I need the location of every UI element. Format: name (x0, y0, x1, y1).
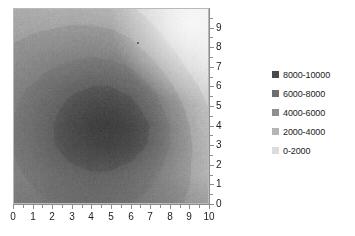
legend-label: 8000-10000 (283, 70, 330, 80)
x-tick-minor (199, 205, 200, 208)
x-tick-label: 6 (128, 212, 134, 222)
x-tick-label: 0 (10, 212, 16, 222)
x-tick-major (111, 205, 112, 209)
y-tick-major (210, 165, 214, 166)
speck-artifact (137, 42, 139, 44)
x-tick-label: 5 (108, 212, 114, 222)
legend-item: 8000-10000 (272, 65, 352, 84)
y-tick-minor (210, 37, 213, 38)
x-tick-major (91, 205, 92, 209)
y-tick-major (210, 47, 214, 48)
x-tick-major (13, 205, 14, 209)
x-tick-minor (180, 205, 181, 208)
y-tick-minor (210, 57, 213, 58)
contour-surface-canvas (14, 9, 208, 203)
x-tick-minor (101, 205, 102, 208)
legend-item: 6000-8000 (272, 84, 352, 103)
x-tick-label: 3 (69, 212, 75, 222)
legend-swatch-icon (272, 90, 279, 97)
x-tick-major (189, 205, 190, 209)
y-tick-major (210, 86, 214, 87)
legend-item: 2000-4000 (272, 122, 352, 141)
x-tick-minor (140, 205, 141, 208)
x-tick-label: 10 (203, 212, 214, 222)
x-tick-minor (121, 205, 122, 208)
y-tick-minor (210, 135, 213, 136)
y-tick-major (210, 204, 214, 205)
x-tick-minor (82, 205, 83, 208)
y-tick-label: 9 (216, 23, 222, 33)
legend-label: 4000-6000 (283, 108, 325, 118)
x-tick-major (33, 205, 34, 209)
legend-label: 6000-8000 (283, 89, 325, 99)
y-tick-minor (210, 18, 213, 19)
x-tick-label: 2 (49, 212, 55, 222)
y-tick-major (210, 184, 214, 185)
y-tick-label: 5 (216, 101, 222, 111)
y-tick-label: 6 (216, 81, 222, 91)
legend-item: 0-2000 (272, 141, 352, 160)
x-tick-minor (160, 205, 161, 208)
legend-label: 0-2000 (283, 146, 310, 156)
y-tick-label: 2 (216, 160, 222, 170)
y-tick-minor (210, 96, 213, 97)
legend-label: 2000-4000 (283, 127, 325, 137)
y-tick-major (210, 126, 214, 127)
y-tick-major (210, 67, 214, 68)
y-tick-major (210, 28, 214, 29)
legend-swatch-icon (272, 147, 279, 154)
y-tick-label: 0 (216, 199, 222, 209)
y-tick-minor (210, 116, 213, 117)
x-tick-major (209, 205, 210, 209)
x-tick-minor (62, 205, 63, 208)
contour-chart-figure: 0123456789 012345678910 8000-100006000-8… (0, 0, 355, 236)
x-tick-label: 9 (186, 212, 192, 222)
x-tick-label: 1 (30, 212, 36, 222)
legend-swatch-icon (272, 109, 279, 116)
y-tick-label: 7 (216, 62, 222, 72)
legend-item: 4000-6000 (272, 103, 352, 122)
x-tick-label: 4 (88, 212, 94, 222)
x-tick-major (52, 205, 53, 209)
x-tick-major (131, 205, 132, 209)
y-tick-label: 1 (216, 179, 222, 189)
legend-swatch-icon (272, 71, 279, 78)
x-tick-major (150, 205, 151, 209)
y-tick-label: 4 (216, 121, 222, 131)
x-tick-label: 8 (167, 212, 173, 222)
x-tick-minor (23, 205, 24, 208)
y-tick-minor (210, 194, 213, 195)
bleed-through-artifact (14, 224, 344, 234)
plot-area (13, 8, 209, 204)
legend-swatch-icon (272, 128, 279, 135)
y-tick-minor (210, 77, 213, 78)
x-tick-major (72, 205, 73, 209)
y-tick-minor (210, 175, 213, 176)
y-tick-label: 3 (216, 140, 222, 150)
x-tick-label: 7 (147, 212, 153, 222)
y-tick-major (210, 145, 214, 146)
y-tick-major (210, 106, 214, 107)
chart-legend: 8000-100006000-80004000-60002000-40000-2… (272, 65, 352, 160)
x-tick-minor (42, 205, 43, 208)
y-tick-label: 8 (216, 42, 222, 52)
x-tick-major (170, 205, 171, 209)
y-tick-minor (210, 155, 213, 156)
